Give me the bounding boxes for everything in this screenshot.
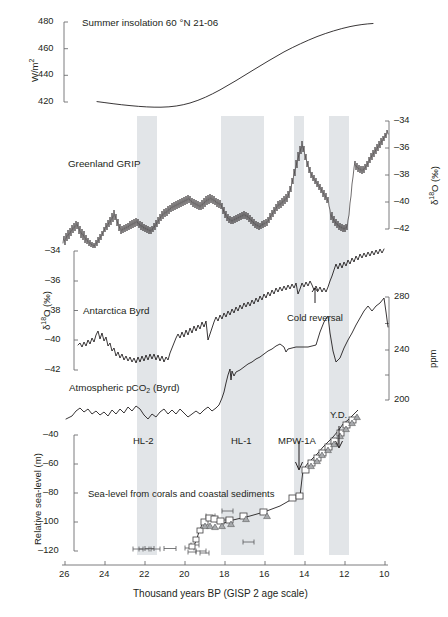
x-tick-10: 10 [379,570,389,579]
sealevel-ytick-80: –80 [43,488,59,497]
x-axis-label: Thousand years BP (GISP 2 age scale) [133,589,308,599]
band-mpw-1a [294,116,304,555]
byrd-axis [74,251,78,370]
cold-reversal-label: Cold reversal [287,313,343,323]
figure-canvas [0,0,448,617]
x-tick-26: 26 [59,570,69,579]
grip-ytick-38: –38 [394,170,410,179]
label-mpw-1a: MPW-1A [278,436,316,446]
label-hl-2: HL-2 [133,436,154,446]
pco2-ytick-200: 200 [394,395,410,404]
label-hl-1: HL-1 [231,436,252,446]
pco2-ytick-240: 240 [394,345,410,354]
x-tick-12: 12 [339,570,349,579]
pco2-yaxis-label: ppm [428,350,438,368]
byrd-ytick-40: –40 [45,335,61,344]
grip-ytick-42: –42 [394,224,410,233]
grip-ytick-36: –36 [394,143,410,152]
grip-ytick-34: –34 [394,116,410,125]
sealevel-axis [74,435,78,551]
x-tick-20: 20 [179,570,189,579]
x-axis [62,561,388,565]
band-yd [329,116,349,555]
insolation-ytick-480: 480 [38,17,54,26]
sealevel-caption: Sea-level from corals and coastal sedime… [88,489,274,499]
figure-root: Summer insolation 60 °N 21-06 480 460 44… [0,0,448,617]
grip-ytick-40: –40 [394,197,410,206]
grip-title: Greenland GRIP [68,159,140,169]
byrd-yaxis-label: δ18O (‰) [40,291,52,330]
sealevel-yaxis-label: Relative sea-level (m) [33,453,43,545]
insolation-ytick-420: 420 [38,97,54,106]
pco2-ytick-280: 280 [394,292,410,301]
pco2-title: Atmospheric pCO2 (Byrd) [69,383,180,394]
x-tick-18: 18 [219,570,229,579]
x-tick-24: 24 [99,570,109,579]
sealevel-ytick-60: –60 [43,459,59,468]
byrd-ytick-42: –42 [45,365,61,374]
cold-reversal-arrow [312,288,318,303]
x-tick-22: 22 [139,570,149,579]
byrd-ytick-34: –34 [45,246,61,255]
pco2-axis [385,297,389,400]
byrd-ytick-36: –36 [45,276,61,285]
x-tick-14: 14 [299,570,309,579]
label-yd: Y.D. [330,410,347,420]
insolation-curve [97,24,373,108]
insolation-ytick-440: 440 [38,70,54,79]
x-tick-16: 16 [259,570,269,579]
sealevel-ytick-40: –40 [43,430,59,439]
insolation-title: Summer insolation 60 °N 21-06 [82,18,218,28]
insolation-ytick-460: 460 [38,44,54,53]
insolation-axis [64,22,68,102]
byrd-title: Antarctica Byrd [83,306,149,316]
insolation-yaxis-label: W/m2 [28,59,40,82]
sealevel-ytick-120: –120 [38,546,59,555]
grip-yaxis-label: δ18O (‰) [428,166,440,205]
